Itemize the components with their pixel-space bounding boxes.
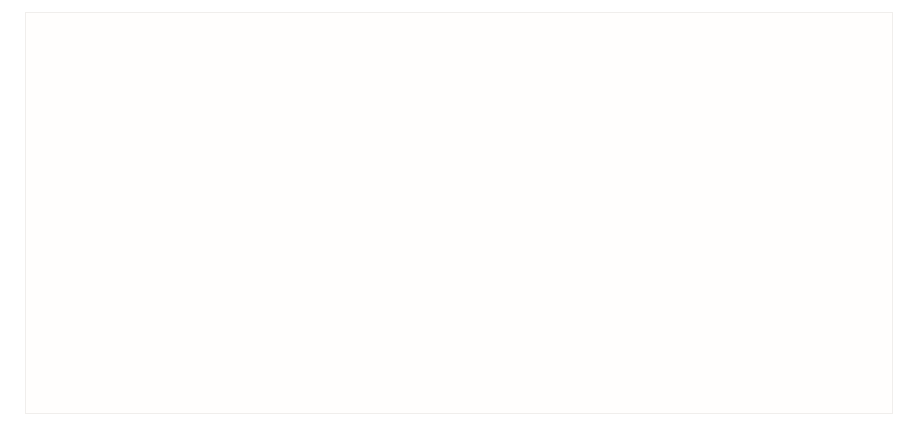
scatter-chart: [26, 13, 892, 413]
chart-frame: [25, 12, 893, 414]
